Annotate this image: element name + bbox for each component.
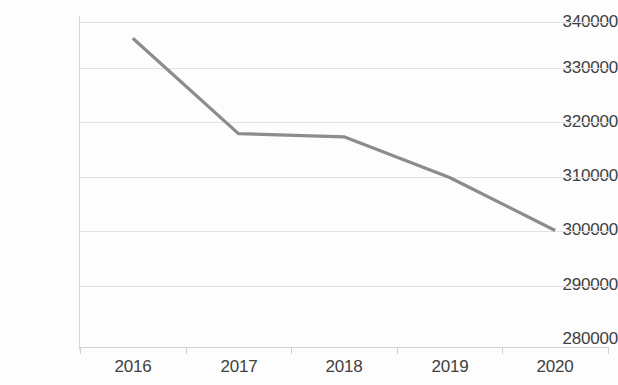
- series-layer: [0, 0, 618, 385]
- series-line: [133, 38, 555, 230]
- line-chart: 340000 330000 320000 310000 300000 29000…: [0, 0, 618, 385]
